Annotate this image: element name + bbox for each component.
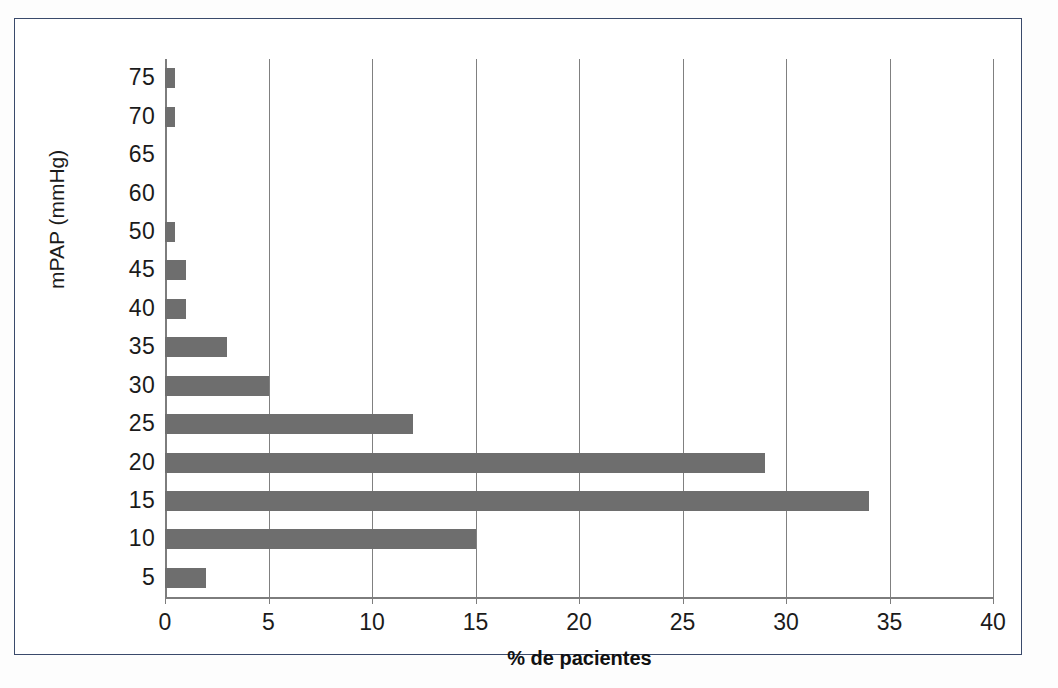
x-tick-label-35: 35 <box>860 611 920 634</box>
x-tick-35 <box>890 597 891 604</box>
bar-30 <box>165 376 269 396</box>
gridline-x-15 <box>476 59 477 597</box>
y-tick-label-15: 15 <box>95 489 155 512</box>
x-tick-label-40: 40 <box>963 611 1023 634</box>
bar-10 <box>165 529 476 549</box>
y-tick-label-70: 70 <box>95 105 155 128</box>
x-tick-0 <box>165 597 166 604</box>
y-tick-label-35: 35 <box>95 335 155 358</box>
y-tick-label-5: 5 <box>95 566 155 589</box>
gridline-x-20 <box>579 59 580 597</box>
bar-25 <box>165 414 413 434</box>
x-tick-5 <box>269 597 270 604</box>
y-tick-label-65: 65 <box>95 143 155 166</box>
figure-container: 757065605045403530252015105 051015202530… <box>0 0 1058 688</box>
x-tick-15 <box>476 597 477 604</box>
x-tick-label-15: 15 <box>446 611 506 634</box>
bar-50 <box>165 222 175 242</box>
y-tick-label-60: 60 <box>95 182 155 205</box>
bar-20 <box>165 453 765 473</box>
y-tick-label-10: 10 <box>95 527 155 550</box>
y-axis-tick-labels: 757065605045403530252015105 <box>83 59 155 597</box>
gridline-x-25 <box>683 59 684 597</box>
y-tick-label-50: 50 <box>95 220 155 243</box>
plot-area <box>165 59 993 597</box>
gridline-x-0 <box>165 59 167 597</box>
bar-45 <box>165 260 186 280</box>
x-tick-20 <box>579 597 580 604</box>
gridline-x-30 <box>786 59 787 597</box>
x-tick-label-20: 20 <box>549 611 609 634</box>
bar-75 <box>165 68 175 88</box>
y-tick-label-20: 20 <box>95 451 155 474</box>
gridline-x-10 <box>372 59 373 597</box>
x-tick-10 <box>372 597 373 604</box>
y-tick-label-25: 25 <box>95 412 155 435</box>
y-tick-label-45: 45 <box>95 258 155 281</box>
gridline-x-5 <box>269 59 270 597</box>
x-tick-label-5: 5 <box>239 611 299 634</box>
x-tick-40 <box>993 597 994 604</box>
x-axis-tick-labels: 0510152025303540 <box>165 611 994 645</box>
bar-15 <box>165 491 869 511</box>
bar-40 <box>165 299 186 319</box>
y-tick-label-30: 30 <box>95 374 155 397</box>
gridline-x-40 <box>993 59 994 597</box>
x-tick-label-30: 30 <box>756 611 816 634</box>
figure-border: 757065605045403530252015105 051015202530… <box>14 18 1022 655</box>
bar-5 <box>165 568 206 588</box>
x-tick-label-0: 0 <box>135 611 195 634</box>
x-axis-title: % de pacientes <box>165 647 994 670</box>
x-tick-25 <box>683 597 684 604</box>
x-tick-label-25: 25 <box>653 611 713 634</box>
y-tick-label-40: 40 <box>95 297 155 320</box>
x-tick-30 <box>786 597 787 604</box>
bar-70 <box>165 107 175 127</box>
y-axis-title: mPAP (mmHg) <box>45 49 69 289</box>
gridline-x-35 <box>890 59 891 597</box>
y-tick-label-75: 75 <box>95 66 155 89</box>
x-tick-label-10: 10 <box>342 611 402 634</box>
bar-35 <box>165 337 227 357</box>
